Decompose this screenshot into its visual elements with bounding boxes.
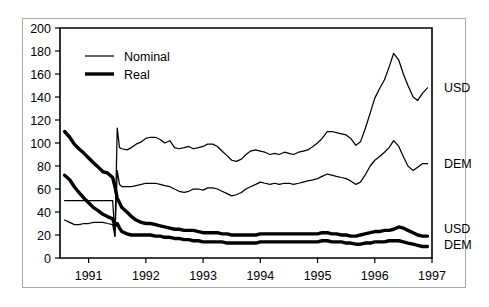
y-tick-label: 200 bbox=[30, 22, 51, 36]
x-tick-label: 1997 bbox=[418, 269, 446, 283]
chart-root: 020406080100120140160180200 199119921993… bbox=[0, 0, 489, 307]
series-line-nominal-usd bbox=[65, 53, 428, 236]
y-tick-label: 0 bbox=[44, 252, 51, 266]
chart-legend: Nominal Real bbox=[85, 50, 170, 82]
y-axis-tick-labels: 020406080100120140160180200 bbox=[30, 22, 51, 266]
y-tick-label: 180 bbox=[30, 45, 51, 59]
y-tick-label: 100 bbox=[30, 137, 51, 151]
y-tick-label: 160 bbox=[30, 68, 51, 82]
x-tick-label: 1991 bbox=[75, 269, 103, 283]
x-axis-tick-labels: 1991199219931994199519961997 bbox=[75, 269, 446, 283]
side-label-usd: USD bbox=[444, 222, 470, 236]
y-tick-label: 20 bbox=[37, 229, 51, 243]
legend-label-nominal: Nominal bbox=[124, 50, 170, 64]
side-label-dem: DEM bbox=[444, 238, 472, 252]
y-tick-label: 60 bbox=[37, 183, 51, 197]
y-tick-label: 40 bbox=[37, 206, 51, 220]
right-side-series-labels: USDDEMUSDDEM bbox=[444, 81, 472, 251]
x-tick-label: 1995 bbox=[304, 269, 332, 283]
y-tick-label: 120 bbox=[30, 114, 51, 128]
data-series-group bbox=[65, 53, 428, 246]
x-tick-label: 1993 bbox=[189, 269, 217, 283]
legend-label-real: Real bbox=[124, 68, 150, 82]
x-tick-label: 1992 bbox=[132, 269, 160, 283]
side-label-dem: DEM bbox=[444, 157, 472, 171]
x-tick-label: 1994 bbox=[246, 269, 274, 283]
side-label-usd: USD bbox=[444, 81, 470, 95]
x-tick-label: 1996 bbox=[361, 269, 389, 283]
chart-canvas: 020406080100120140160180200 199119921993… bbox=[0, 0, 489, 307]
y-tick-label: 140 bbox=[30, 91, 51, 105]
y-tick-label: 80 bbox=[37, 160, 51, 174]
